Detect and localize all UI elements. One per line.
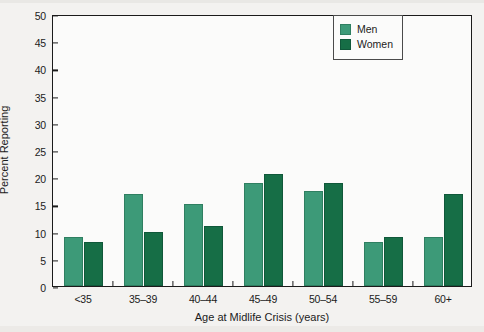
y-tick-label: 35	[35, 92, 53, 104]
bar-women-3[interactable]	[264, 174, 283, 286]
bar-women-2[interactable]	[204, 226, 223, 286]
legend-label-men: Men	[357, 23, 377, 35]
x-tick-label: 50–54	[309, 293, 337, 305]
bar-women-4[interactable]	[324, 183, 343, 286]
y-tick-label: 45	[35, 37, 53, 49]
x-tick-mark	[112, 281, 113, 286]
bar-men-2[interactable]	[184, 204, 203, 286]
x-axis-title: Age at Midlife Crisis (years)	[52, 311, 472, 323]
y-tick-mark	[53, 151, 58, 152]
chart-figure: Percent Reporting 05101520253035404550<3…	[0, 0, 484, 332]
plot-area: 05101520253035404550<3535–3940–4445–4950…	[52, 15, 472, 287]
legend-swatch-men-icon	[340, 24, 351, 35]
y-tick-mark	[53, 124, 58, 125]
y-tick-label: 0	[40, 282, 53, 294]
y-tick-mark	[53, 97, 58, 98]
bar-men-0[interactable]	[64, 237, 83, 286]
y-tick-mark	[53, 260, 58, 261]
y-tick-mark	[53, 233, 58, 234]
bar-men-4[interactable]	[304, 191, 323, 286]
legend-item-women[interactable]: Women	[340, 38, 396, 50]
x-tick-mark	[412, 281, 413, 286]
y-tick-label: 50	[35, 10, 53, 22]
legend-item-men[interactable]: Men	[340, 23, 396, 35]
y-tick-mark	[53, 70, 58, 71]
y-tick-label: 30	[35, 119, 53, 131]
legend-swatch-women-icon	[340, 39, 351, 50]
scan-edge-bottom	[0, 326, 484, 332]
y-tick-mark	[53, 206, 58, 207]
bar-women-5[interactable]	[384, 237, 403, 286]
bar-women-6[interactable]	[444, 194, 463, 286]
y-tick-label: 5	[40, 255, 53, 267]
bar-men-6[interactable]	[424, 237, 443, 286]
y-tick-label: 20	[35, 173, 53, 185]
x-tick-label: 55–59	[369, 293, 397, 305]
y-tick-mark	[53, 43, 58, 44]
scan-edge-top	[0, 0, 484, 3]
bar-men-3[interactable]	[244, 183, 263, 286]
y-tick-mark	[53, 15, 58, 16]
x-tick-mark	[232, 281, 233, 286]
x-tick-label: 35–39	[129, 293, 157, 305]
x-tick-label: <35	[74, 293, 91, 305]
bar-women-1[interactable]	[144, 232, 163, 286]
y-axis-title: Percent Reporting	[0, 106, 10, 195]
y-tick-label: 40	[35, 64, 53, 76]
y-tick-label: 10	[35, 228, 53, 240]
x-tick-label: 45–49	[249, 293, 277, 305]
bar-men-5[interactable]	[364, 242, 383, 286]
x-tick-mark	[172, 281, 173, 286]
x-tick-mark	[292, 281, 293, 286]
x-tick-mark	[352, 281, 353, 286]
x-tick-label: 60+	[434, 293, 451, 305]
y-tick-label: 15	[35, 200, 53, 212]
chart-legend: Men Women	[333, 15, 403, 60]
y-tick-mark	[53, 179, 58, 180]
bar-women-0[interactable]	[84, 242, 103, 286]
y-tick-label: 25	[35, 146, 53, 158]
bar-men-1[interactable]	[124, 194, 143, 286]
x-tick-label: 40–44	[189, 293, 217, 305]
legend-label-women: Women	[357, 38, 393, 50]
y-tick-mark	[53, 287, 58, 288]
